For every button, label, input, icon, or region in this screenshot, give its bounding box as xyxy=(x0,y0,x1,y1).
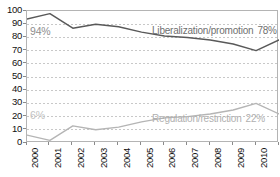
annotation-series1-name: Liberalization/promotion xyxy=(152,25,253,36)
annotation-series2-end: 22% xyxy=(246,113,265,124)
x-tick-label: 2000 xyxy=(30,148,40,168)
y-tick-label: 100 xyxy=(0,5,22,15)
annotation-series1-label: Liberalization/promotion78% xyxy=(152,25,277,36)
annotation-series1-end: 78% xyxy=(257,25,276,36)
x-tick-label: 2009 xyxy=(236,148,246,168)
x-tick-label: 2008 xyxy=(213,148,223,168)
x-tick-label: 2003 xyxy=(99,148,109,168)
x-tick-label: 2010 xyxy=(259,148,269,168)
x-tick-label: 2006 xyxy=(167,148,177,168)
x-axis: 2000200120022003200420052006200720082009… xyxy=(0,142,280,177)
y-tick-label: 90 xyxy=(0,18,22,28)
y-tick-label: 50 xyxy=(0,71,22,81)
annotation-series2-name: Regulation/restriction xyxy=(152,113,242,124)
annotation-series1-start: 94% xyxy=(30,26,50,37)
y-tick-label: 10 xyxy=(0,124,22,134)
x-tick-label: 2002 xyxy=(76,148,86,168)
y-tick-label: 80 xyxy=(0,31,22,41)
annotation-series2-start: 6% xyxy=(30,110,45,121)
x-tick-label: 2005 xyxy=(145,148,155,168)
x-tick-label: 2007 xyxy=(190,148,200,168)
y-tick-label: 30 xyxy=(0,97,22,107)
y-tick-label: 60 xyxy=(0,58,22,68)
annotation-series2-label: Regulation/restriction22% xyxy=(152,113,265,124)
y-tick-label: 40 xyxy=(0,84,22,94)
line-chart: 0102030405060708090100 20002001200220032… xyxy=(0,0,280,177)
y-tick-label: 70 xyxy=(0,45,22,55)
x-tick-label: 2001 xyxy=(53,148,63,168)
x-tick-label: 2004 xyxy=(122,148,132,168)
y-tick-label: 20 xyxy=(0,111,22,121)
